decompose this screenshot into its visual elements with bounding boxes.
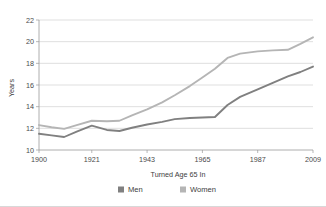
y-tick-label: 20: [26, 37, 34, 46]
x-tick-label: 1921: [84, 155, 100, 164]
legend-label-men: Men: [128, 185, 143, 194]
chart-legend: MenWomen: [118, 185, 216, 194]
line-chart: 10121416182022 190019211943196519872009 …: [0, 0, 326, 207]
legend-swatch-men: [118, 187, 124, 193]
x-tick-label: 2009: [305, 155, 321, 164]
y-tick-label: 22: [26, 16, 34, 25]
gridlines: [39, 20, 313, 128]
x-axis-title: Turned Age 65 In: [151, 170, 206, 179]
x-tick-label: 1987: [250, 155, 266, 164]
axes: [36, 20, 313, 153]
series-line-men: [39, 67, 313, 137]
x-axis-tick-labels: 190019211943196519872009: [31, 155, 321, 164]
y-axis-title: Years: [7, 79, 16, 98]
y-tick-label: 18: [26, 59, 34, 68]
x-tick-label: 1965: [194, 155, 210, 164]
x-tick-label: 1943: [139, 155, 155, 164]
x-tick-label: 1900: [31, 155, 47, 164]
y-axis-tick-labels: 10121416182022: [26, 16, 34, 155]
y-tick-label: 14: [26, 102, 34, 111]
data-series: [39, 37, 313, 137]
y-tick-label: 16: [26, 81, 34, 90]
y-tick-label: 10: [26, 146, 34, 155]
y-tick-label: 12: [26, 124, 34, 133]
legend-swatch-women: [180, 187, 186, 193]
chart-container: 10121416182022 190019211943196519872009 …: [0, 0, 326, 207]
legend-label-women: Women: [190, 185, 216, 194]
